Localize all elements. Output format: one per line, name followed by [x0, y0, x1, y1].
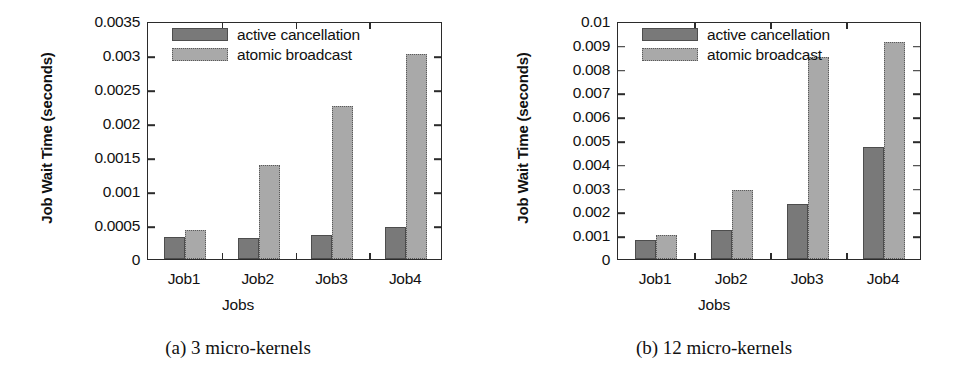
- x-tick-mark: [770, 253, 772, 259]
- y-tick-mark: [618, 70, 625, 72]
- y-tick-label: 0.001: [103, 183, 140, 201]
- legend-b: active cancellationatomic broadcast: [642, 26, 830, 63]
- legend-item-ac: active cancellation: [642, 26, 830, 43]
- panel-caption-a: (a) 3 micro-kernels: [0, 337, 476, 359]
- bar-job1-active-cancellation: [635, 240, 656, 259]
- y-tick-mark: [913, 117, 920, 119]
- panel-caption-b: (b) 12 micro-kernels: [476, 337, 952, 359]
- y-tick-label: 0.003: [573, 180, 610, 198]
- legend-swatch-ac: [642, 28, 698, 41]
- y-tick-mark: [148, 226, 155, 228]
- y-tick-label: 0.008: [573, 61, 610, 79]
- x-tick-label: Job2: [715, 270, 747, 288]
- legend-label: active cancellation: [237, 26, 360, 44]
- x-tick-mark: [296, 253, 298, 259]
- y-tick-mark: [618, 213, 625, 215]
- y-tick-label: 0: [602, 251, 610, 269]
- y-tick-label: 0.002: [103, 115, 140, 133]
- bar-job3-atomic-broadcast: [332, 106, 353, 259]
- y-tick-mark: [434, 192, 441, 194]
- legend-label: atomic broadcast: [237, 46, 352, 64]
- bar-job3-active-cancellation: [311, 235, 332, 259]
- legend-swatch-ab: [172, 48, 228, 61]
- y-tick-mark: [913, 236, 920, 238]
- x-tick-label: Job3: [791, 270, 823, 288]
- y-tick-mark: [618, 46, 625, 48]
- legend-swatch-ab: [642, 48, 698, 61]
- x-tick-label: Job3: [315, 270, 347, 288]
- bar-job2-atomic-broadcast: [259, 165, 280, 259]
- x-tick-label: Job2: [241, 270, 273, 288]
- y-tick-label: 0.0015: [94, 149, 140, 167]
- bar-job2-active-cancellation: [238, 238, 259, 259]
- y-tick-mark: [618, 236, 625, 238]
- legend-item-ab: atomic broadcast: [642, 46, 830, 63]
- y-tick-mark: [434, 56, 441, 58]
- y-tick-label: 0.003: [103, 47, 140, 65]
- x-axis-title: Jobs: [0, 296, 476, 314]
- bar-job3-active-cancellation: [787, 204, 808, 259]
- y-tick-label: 0.006: [573, 108, 610, 126]
- y-axis-tick-labels: 00.0010.0020.0030.0040.0050.0060.0070.00…: [476, 0, 610, 382]
- bar-job1-atomic-broadcast: [185, 230, 206, 259]
- bar-job3-atomic-broadcast: [808, 57, 829, 259]
- legend-item-ac: active cancellation: [172, 26, 360, 43]
- x-axis-title: Jobs: [476, 296, 952, 314]
- y-tick-label: 0.01: [581, 13, 610, 31]
- x-tick-label: Job4: [867, 270, 899, 288]
- y-axis-tick-labels: 00.00050.0010.00150.0020.00250.0030.0035: [0, 0, 140, 382]
- bar-job2-atomic-broadcast: [732, 190, 753, 259]
- legend-a: active cancellationatomic broadcast: [172, 26, 360, 63]
- legend-item-ab: atomic broadcast: [172, 46, 360, 63]
- y-tick-mark: [148, 90, 155, 92]
- x-tick-label: Job1: [639, 270, 671, 288]
- x-tick-mark: [222, 253, 224, 259]
- y-tick-mark: [148, 124, 155, 126]
- y-tick-mark: [434, 124, 441, 126]
- y-tick-label: 0.009: [573, 37, 610, 55]
- y-tick-mark: [913, 189, 920, 191]
- legend-label: active cancellation: [707, 26, 830, 44]
- y-tick-label: 0: [132, 251, 140, 269]
- figure-row: Job Wait Time (seconds) 00.00050.0010.00…: [0, 0, 953, 382]
- x-tick-label: Job1: [168, 270, 200, 288]
- bar-job4-active-cancellation: [385, 227, 406, 259]
- y-tick-mark: [913, 213, 920, 215]
- y-tick-mark: [618, 165, 625, 167]
- y-tick-mark: [913, 70, 920, 72]
- y-tick-mark: [913, 141, 920, 143]
- bar-job1-active-cancellation: [164, 237, 185, 259]
- chart-panel-a: Job Wait Time (seconds) 00.00050.0010.00…: [0, 0, 476, 382]
- y-tick-mark: [148, 56, 155, 58]
- y-tick-label: 0.001: [573, 227, 610, 245]
- y-tick-mark: [618, 117, 625, 119]
- legend-label: atomic broadcast: [707, 46, 822, 64]
- bar-job4-atomic-broadcast: [406, 54, 427, 259]
- y-tick-mark: [618, 141, 625, 143]
- y-tick-mark: [618, 189, 625, 191]
- bar-job2-active-cancellation: [711, 230, 732, 259]
- x-tick-mark: [369, 253, 371, 259]
- y-tick-label: 0.005: [573, 132, 610, 150]
- y-tick-mark: [148, 158, 155, 160]
- y-tick-label: 0.0035: [94, 13, 140, 31]
- legend-swatch-ac: [172, 28, 228, 41]
- y-tick-label: 0.004: [573, 156, 610, 174]
- y-tick-mark: [618, 94, 625, 96]
- y-tick-mark: [913, 165, 920, 167]
- y-tick-mark: [434, 90, 441, 92]
- y-tick-label: 0.007: [573, 84, 610, 102]
- y-tick-mark: [434, 158, 441, 160]
- x-tick-mark: [369, 23, 371, 29]
- x-tick-mark: [846, 23, 848, 29]
- y-tick-mark: [434, 226, 441, 228]
- chart-panel-b: Job Wait Time (seconds) 00.0010.0020.003…: [476, 0, 952, 382]
- bar-job4-atomic-broadcast: [884, 42, 905, 259]
- bar-job4-active-cancellation: [863, 147, 884, 259]
- x-tick-mark: [846, 253, 848, 259]
- y-tick-label: 0.0005: [94, 217, 140, 235]
- x-tick-mark: [694, 253, 696, 259]
- y-tick-mark: [913, 94, 920, 96]
- y-tick-mark: [913, 46, 920, 48]
- y-tick-label: 0.002: [573, 203, 610, 221]
